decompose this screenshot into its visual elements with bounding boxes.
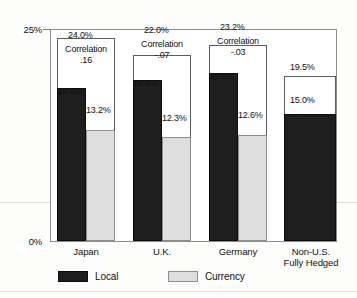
value-label-currency-germany: 12.6% xyxy=(238,110,263,120)
annotation-correlation-word-japan: Correlation xyxy=(65,44,107,54)
bar-currency-japan[interactable] xyxy=(86,130,115,241)
annotation-correlation-value-uk: -.07 xyxy=(155,50,170,60)
annotation-correlation-japan: Correlation .16 xyxy=(57,44,115,65)
bar-chart: 25% 0% 24.0% Correlation xyxy=(0,0,357,298)
bar-local-germany[interactable] xyxy=(209,73,238,241)
value-label-local-japan: 18.1% xyxy=(57,86,82,96)
value-label-currency-japan: 13.2% xyxy=(86,105,111,115)
legend-label-local: Local xyxy=(95,271,118,282)
y-axis-tick-label-25: 25% xyxy=(8,24,42,35)
legend-item-currency[interactable]: Currency xyxy=(168,271,245,282)
value-label-local-uk: 19.1% xyxy=(133,78,158,88)
legend-swatch-local-icon xyxy=(58,271,88,282)
y-axis-tick-mark xyxy=(43,29,50,30)
scan-artifact-line xyxy=(0,291,357,292)
legend-item-local[interactable]: Local xyxy=(58,271,118,282)
x-axis-label-hedged-line2: Fully Hedged xyxy=(284,257,339,268)
x-axis-label-hedged-line1: Non-U.S. xyxy=(292,246,330,257)
value-label-local-germany: 19.9% xyxy=(209,71,234,81)
legend-label-currency: Currency xyxy=(205,271,245,282)
annotation-correlation-uk: Correlation -.07 xyxy=(133,39,191,60)
bar-group-uk xyxy=(127,30,197,241)
bar-currency-uk[interactable] xyxy=(162,137,191,241)
value-label-total-germany: 23.2% xyxy=(220,22,245,32)
value-label-total-hedged: 19.5% xyxy=(290,62,315,72)
annotation-correlation-value-germany: -.03 xyxy=(231,47,246,57)
legend: Local Currency xyxy=(0,271,357,289)
value-label-currency-uk: 12.3% xyxy=(162,113,187,123)
x-axis-label-hedged: Non-U.S. Fully Hedged xyxy=(273,246,349,268)
value-label-local-hedged: 15.0% xyxy=(290,95,315,105)
value-label-total-japan: 24.0% xyxy=(68,30,93,40)
y-axis-tick-label-0: 0% xyxy=(8,236,42,247)
x-axis-label-uk: U.K. xyxy=(127,246,197,257)
annotation-correlation-germany: Correlation -.03 xyxy=(209,36,267,57)
bar-local-hedged[interactable] xyxy=(284,114,336,241)
value-label-total-uk: 22.0% xyxy=(144,25,169,35)
annotation-correlation-word-germany: Correlation xyxy=(217,36,259,46)
bar-group-germany xyxy=(203,30,273,241)
bar-local-uk[interactable] xyxy=(133,80,162,241)
x-axis-label-japan: Japan xyxy=(51,246,121,257)
bar-local-japan[interactable] xyxy=(57,88,86,241)
bar-currency-germany[interactable] xyxy=(238,135,267,241)
annotation-correlation-value-japan: .16 xyxy=(80,55,92,65)
x-axis-label-germany: Germany xyxy=(203,246,273,257)
annotation-correlation-word-uk: Correlation xyxy=(141,39,183,49)
legend-swatch-currency-icon xyxy=(168,271,198,282)
